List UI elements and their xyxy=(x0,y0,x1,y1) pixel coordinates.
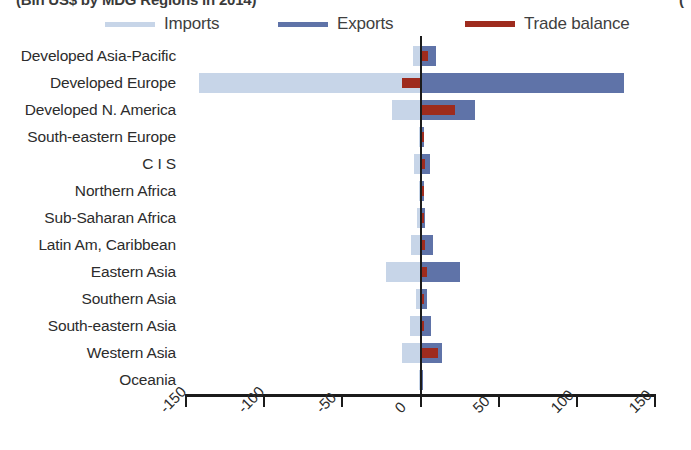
category-label: Developed Europe xyxy=(50,75,176,90)
category-label: Sub-Saharan Africa xyxy=(44,210,176,225)
bar-trade-balance xyxy=(421,105,455,115)
legend-item-exports[interactable]: Exports xyxy=(278,14,393,34)
x-tick xyxy=(341,394,343,407)
category-label: South-eastern Europe xyxy=(27,129,176,144)
legend-label-exports: Exports xyxy=(337,14,393,34)
x-tick xyxy=(498,394,500,407)
category-label: Latin Am, Caribbean xyxy=(38,237,176,252)
bar-imports xyxy=(402,343,421,363)
category-label: C I S xyxy=(142,156,176,171)
category-label: Southern Asia xyxy=(81,291,176,306)
legend-item-trade-balance[interactable]: Trade balance xyxy=(465,14,629,34)
bar-imports xyxy=(392,100,420,120)
zero-axis-line xyxy=(420,36,422,402)
category-label: Eastern Asia xyxy=(91,264,176,279)
category-label: South-eastern Asia xyxy=(48,318,176,333)
category-label: Western Asia xyxy=(87,345,176,360)
chart-legend: Imports Exports Trade balance xyxy=(0,14,691,38)
category-axis-labels: Developed Asia-PacificDeveloped EuropeDe… xyxy=(0,42,180,394)
bar-exports xyxy=(421,73,624,93)
category-label: Oceania xyxy=(119,372,176,387)
trade-bar-chart: (Bln US$ by MDG Regions in 2014) ( Impor… xyxy=(0,0,691,450)
chart-title-right-fragment: ( xyxy=(679,0,689,8)
plot-area xyxy=(186,42,655,394)
bar-imports xyxy=(386,262,420,282)
chart-title: (Bln US$ by MDG Regions in 2014) xyxy=(16,0,256,8)
legend-label-trade-balance: Trade balance xyxy=(524,14,629,34)
legend-swatch-imports xyxy=(105,22,155,27)
bar-imports xyxy=(199,73,421,93)
x-tick xyxy=(654,394,656,407)
category-label: Northern Africa xyxy=(75,183,176,198)
bar-trade-balance xyxy=(421,348,438,358)
legend-swatch-trade-balance xyxy=(465,21,515,27)
category-label: Developed Asia-Pacific xyxy=(21,48,176,63)
legend-item-imports[interactable]: Imports xyxy=(105,14,219,34)
bar-trade-balance xyxy=(402,78,421,88)
category-label: Developed N. America xyxy=(25,102,176,117)
legend-swatch-exports xyxy=(278,22,328,27)
bar-trade-balance xyxy=(421,51,429,61)
x-tick xyxy=(420,394,422,407)
x-tick-label: 0 xyxy=(391,398,409,416)
x-tick xyxy=(576,394,578,407)
legend-label-imports: Imports xyxy=(164,14,219,34)
